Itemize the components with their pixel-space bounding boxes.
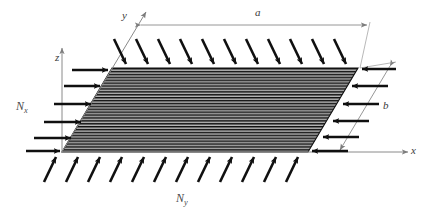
load-label-nx-symbol: N — [16, 99, 24, 113]
load-label-ny-symbol: N — [176, 191, 184, 205]
axis-label-z: z — [55, 52, 59, 63]
dimension-label-b: b — [383, 100, 389, 111]
plate-surface — [62, 68, 358, 152]
load-label-ny: Ny — [176, 192, 188, 208]
load-label-nx-subscript: x — [24, 106, 28, 115]
load-arrows-top — [114, 39, 346, 64]
load-label-nx: Nx — [16, 100, 28, 116]
dimension-label-a: a — [255, 7, 261, 18]
figure-canvas — [0, 0, 441, 218]
load-arrows-bottom — [44, 157, 298, 182]
axis-label-y: y — [122, 10, 127, 21]
plate-buckling-figure: y x z a b Nx Ny — [0, 0, 441, 218]
axis-label-x: x — [411, 145, 416, 156]
load-label-ny-subscript: y — [184, 198, 188, 207]
